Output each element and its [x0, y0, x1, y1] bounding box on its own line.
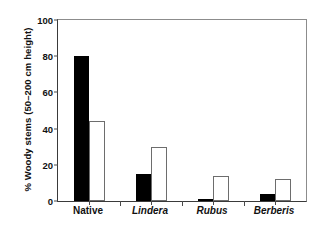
bar-filled-berberis — [260, 194, 276, 201]
x-axis-label-lindera: Lindera — [132, 205, 168, 216]
bar-open-rubus — [213, 176, 229, 201]
y-tick-mark — [54, 56, 59, 57]
y-axis-title: % Woody stems (50–200 cm height) — [22, 15, 33, 205]
y-tick-label: 60 — [42, 87, 53, 98]
y-tick-label: 80 — [42, 51, 53, 62]
x-axis-label-rubus: Rubus — [196, 205, 227, 216]
plot-area: 020406080100 — [57, 19, 307, 202]
y-tick-mark — [54, 201, 59, 202]
x-axis-label-native: Native — [73, 205, 103, 216]
bar-chart-figure: % Woody stems (50–200 cm height) 0204060… — [0, 0, 318, 228]
y-tick-label: 40 — [42, 123, 53, 134]
y-tick-mark — [54, 20, 59, 21]
bar-open-native — [89, 121, 105, 201]
y-tick-label: 0 — [48, 196, 53, 207]
x-tick-mark — [120, 201, 121, 206]
x-axis-label-berberis: Berberis — [254, 205, 295, 216]
x-tick-mark — [244, 201, 245, 206]
bar-open-lindera — [151, 147, 167, 201]
y-tick-mark — [54, 128, 59, 129]
y-tick-mark — [54, 164, 59, 165]
y-tick-label: 100 — [37, 15, 53, 26]
bar-filled-rubus — [198, 199, 214, 201]
y-tick-mark — [54, 92, 59, 93]
bar-filled-native — [74, 56, 90, 201]
x-tick-mark — [182, 201, 183, 206]
bar-open-berberis — [275, 179, 291, 201]
y-tick-label: 20 — [42, 159, 53, 170]
bar-filled-lindera — [136, 174, 152, 201]
